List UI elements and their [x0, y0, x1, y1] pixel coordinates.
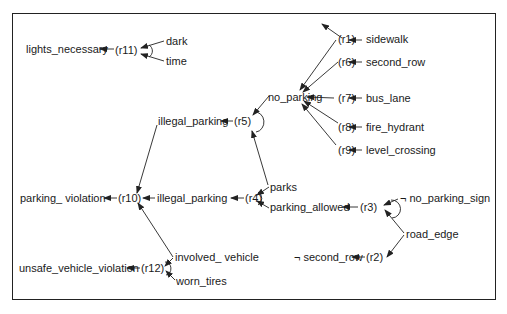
node-sidewalk: sidewalk	[366, 33, 408, 45]
rule-r9: (r9)	[338, 144, 355, 156]
rule-r3: (r3)	[360, 201, 377, 213]
node-level-crossing: level_crossing	[366, 144, 436, 156]
rule-r8: (r8)	[338, 121, 355, 133]
node-parking-allowed: parking_allowed	[270, 201, 350, 213]
node-not-second-row: ¬ second_row	[294, 251, 363, 263]
node-parks: parks	[270, 181, 297, 193]
node-illegal-parking-mid: illegal_parking	[157, 192, 227, 204]
node-unsafe-vehicle-violation: unsafe_vehicle_violation	[19, 262, 139, 274]
rule-r11: (r11)	[115, 44, 137, 56]
node-lights-necessary: lights_necessary	[26, 43, 108, 55]
node-involved-vehicle: involved_ vehicle	[175, 251, 259, 263]
node-second-row: second_row	[366, 56, 425, 68]
rule-r5: (r5)	[234, 115, 251, 127]
rule-r7: (r7)	[338, 92, 355, 104]
node-road-edge: road_edge	[406, 228, 459, 240]
node-dark: dark	[166, 35, 187, 47]
rule-r2: (r2)	[366, 251, 383, 263]
node-illegal-parking-top: illegal_parking	[158, 115, 228, 127]
rule-r4: (r4)	[245, 192, 262, 204]
rule-r10: (r10)	[118, 192, 141, 204]
node-bus-lane: bus_lane	[366, 92, 411, 104]
node-worn-tires: worn_tires	[176, 275, 227, 287]
node-parking-violation: parking_ violation	[20, 192, 106, 204]
node-no-parking: no_parking	[268, 91, 322, 103]
node-not-no-parking-sign: ¬ no_parking_sign	[400, 192, 490, 204]
node-fire-hydrant: fire_hydrant	[366, 121, 424, 133]
rule-r12: (r12)	[141, 262, 164, 274]
rule-r6: (r6)	[338, 56, 355, 68]
rule-r1: (r1)	[338, 33, 355, 45]
node-time: time	[166, 55, 187, 67]
